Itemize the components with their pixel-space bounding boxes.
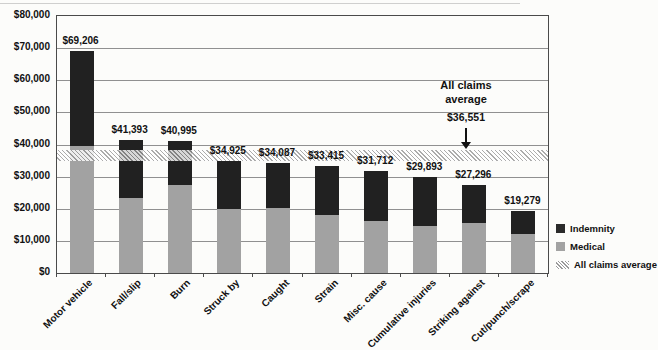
x-tick: [498, 274, 499, 277]
scan-artifact-line: [0, 3, 520, 4]
legend-item-medical: Medical: [556, 241, 657, 252]
medical-bar-segment: [462, 223, 486, 273]
stacked-claims-cost-chart: $0$10,000$20,000$30,000$40,000$50,000$60…: [0, 0, 658, 350]
annotation-label: All claims average: [427, 78, 505, 106]
indemnity-bar-segment: [511, 211, 535, 234]
down-arrow-stem: [465, 128, 467, 143]
x-tick: [449, 274, 450, 277]
x-category-label: Strain: [312, 277, 341, 306]
bar-value-label: $27,296: [433, 169, 513, 181]
y-tick-label: $80,000: [0, 9, 56, 21]
x-category-label: Fall/slip: [109, 277, 144, 312]
y-tick-label: $50,000: [0, 105, 56, 117]
medical-bar-segment: [413, 226, 437, 273]
medical-bar-segment: [70, 146, 94, 273]
indemnity-bar-segment: [315, 166, 339, 215]
hatch-swatch-icon: [556, 261, 569, 269]
y-tick-label: $30,000: [0, 170, 56, 182]
medical-bar-segment: [315, 215, 339, 273]
y-tick-label: $0: [0, 266, 56, 278]
indemnity-bar-segment: [217, 161, 241, 209]
x-tick: [203, 274, 204, 277]
bar-value-label: $19,279: [482, 195, 562, 207]
legend-label: Medical: [570, 241, 605, 252]
legend: IndemnityMedicalAll claims average: [556, 223, 657, 277]
y-tick-label: $60,000: [0, 73, 56, 85]
medical-bar-segment: [217, 209, 241, 273]
bar-value-label: $69,206: [41, 35, 121, 47]
legend-label: All claims average: [574, 259, 657, 270]
medical-bar-segment: [168, 185, 192, 273]
medical-bar-segment: [119, 198, 143, 273]
plot-area: [56, 15, 549, 274]
x-category-label: Struck by: [202, 277, 243, 318]
indemnity-bar-segment: [364, 171, 388, 221]
x-tick: [252, 274, 253, 277]
x-category-label: Motor vehicle: [41, 277, 95, 331]
x-tick: [154, 274, 155, 277]
annotation-value: $36,551: [427, 111, 505, 123]
medical-swatch-icon: [556, 242, 565, 251]
legend-label: Indemnity: [570, 223, 615, 234]
y-tick-label: $20,000: [0, 202, 56, 214]
medical-bar-segment: [266, 208, 290, 273]
x-tick: [547, 274, 548, 277]
x-tick: [56, 274, 57, 277]
bar-value-label: $40,995: [139, 125, 219, 137]
x-tick: [105, 274, 106, 277]
indemnity-bar-segment: [119, 140, 143, 198]
medical-bar-segment: [364, 221, 388, 273]
x-category-label: Burn: [168, 277, 193, 302]
x-tick: [351, 274, 352, 277]
down-arrow-icon: [461, 142, 471, 149]
indemnity-swatch-icon: [556, 224, 565, 233]
gridline: [57, 48, 548, 49]
indemnity-bar-segment: [413, 177, 437, 226]
x-tick: [302, 274, 303, 277]
indemnity-bar-segment: [266, 163, 290, 207]
x-tick: [400, 274, 401, 277]
x-category-label: Caught: [259, 277, 292, 310]
x-category-label: Misc. cause: [341, 277, 389, 325]
medical-bar-segment: [511, 234, 535, 273]
legend-item-hatch: All claims average: [556, 259, 657, 270]
y-tick-label: $10,000: [0, 234, 56, 246]
legend-item-indemnity: Indemnity: [556, 223, 657, 234]
y-tick-label: $40,000: [0, 138, 56, 150]
